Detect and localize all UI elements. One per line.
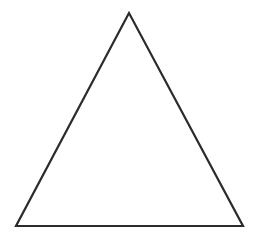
diagram-canvas	[0, 0, 264, 236]
triangle-figure	[0, 0, 264, 236]
triangle-outline	[16, 13, 243, 226]
